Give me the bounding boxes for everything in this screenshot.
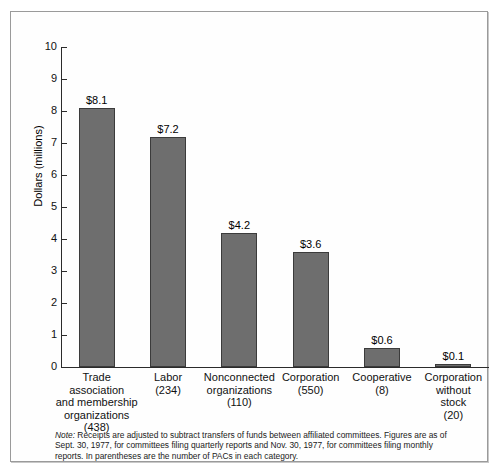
bar	[293, 252, 329, 367]
y-axis-tick-label: 1	[23, 329, 57, 340]
bar-value-label: $8.1	[65, 94, 129, 106]
note-lead: Note:	[55, 430, 75, 440]
y-axis-tick	[61, 367, 67, 368]
category-label-line: without	[403, 384, 498, 397]
bar	[435, 364, 471, 367]
bar-value-label: $0.6	[350, 334, 414, 346]
bar-value-label: $3.6	[279, 238, 343, 250]
bar-value-label: $0.1	[421, 350, 485, 362]
bar	[221, 233, 257, 367]
plot-area: $8.1$7.2$4.2$3.6$0.6$0.1	[61, 47, 489, 367]
chart-note: Note: Receipts are adjusted to subtract …	[55, 430, 453, 461]
bar	[150, 137, 186, 367]
y-axis-tick-label: 4	[23, 233, 57, 244]
y-axis-title: Dollars (millions)	[32, 106, 44, 226]
category-label-line: Corporation	[403, 371, 498, 384]
bar	[79, 108, 115, 367]
category-label-line: (20)	[403, 409, 498, 422]
y-axis-tick-label: 9	[23, 73, 57, 84]
category-label-line: and membership	[47, 396, 147, 409]
category-label-line: organizations	[47, 409, 147, 422]
bar-value-label: $4.2	[207, 219, 271, 231]
x-axis-line	[61, 367, 489, 368]
bar	[364, 348, 400, 367]
note-body: Receipts are adjusted to subtract transf…	[55, 430, 447, 461]
y-axis-tick-label: 2	[23, 297, 57, 308]
bar-value-label: $7.2	[136, 123, 200, 135]
category-label-line: stock	[403, 396, 498, 409]
y-axis-tick-label: 3	[23, 265, 57, 276]
category-label: Corporationwithoutstock(20)	[403, 371, 498, 421]
category-label-line: (110)	[189, 396, 289, 409]
y-axis-tick-label: 10	[23, 41, 57, 52]
figure-frame: 012345678910 Dollars (millions) $8.1$7.2…	[10, 11, 488, 462]
